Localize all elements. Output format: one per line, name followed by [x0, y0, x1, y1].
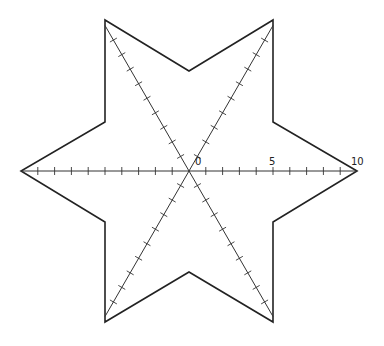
tick-mark — [177, 184, 184, 188]
tick-mark — [144, 242, 151, 246]
tick-mark — [228, 242, 235, 246]
tick-mark — [127, 271, 134, 275]
tick-mark — [177, 154, 184, 158]
tick-mark — [135, 82, 142, 86]
tick-mark — [110, 38, 117, 42]
tick-mark — [236, 82, 243, 86]
tick-mark — [152, 227, 159, 231]
star-diagram — [0, 0, 384, 346]
tick-mark — [228, 96, 235, 100]
tick-mark — [110, 300, 117, 304]
tick-mark — [118, 53, 125, 57]
tick-mark — [118, 285, 125, 289]
tick-mark — [219, 227, 226, 231]
tick-mark — [253, 285, 260, 289]
tick-mark — [211, 213, 218, 217]
tick-mark — [160, 125, 167, 129]
tick-mark — [219, 111, 226, 115]
axis-label-5: 5 — [269, 157, 275, 167]
axis-label-10: 10 — [351, 157, 364, 167]
tick-mark — [236, 256, 243, 260]
axis-label-0: 0 — [195, 157, 201, 167]
tick-mark — [135, 256, 142, 260]
tick-mark — [202, 198, 209, 202]
tick-mark — [244, 67, 251, 71]
tick-mark — [244, 271, 251, 275]
tick-mark — [202, 140, 209, 144]
tick-mark — [253, 53, 260, 57]
tick-mark — [194, 184, 201, 188]
tick-mark — [152, 111, 159, 115]
tick-mark — [169, 140, 176, 144]
tick-mark — [261, 38, 268, 42]
tick-mark — [261, 300, 268, 304]
tick-mark — [127, 67, 134, 71]
tick-mark — [144, 96, 151, 100]
tick-mark — [169, 198, 176, 202]
tick-mark — [160, 213, 167, 217]
tick-mark — [211, 125, 218, 129]
